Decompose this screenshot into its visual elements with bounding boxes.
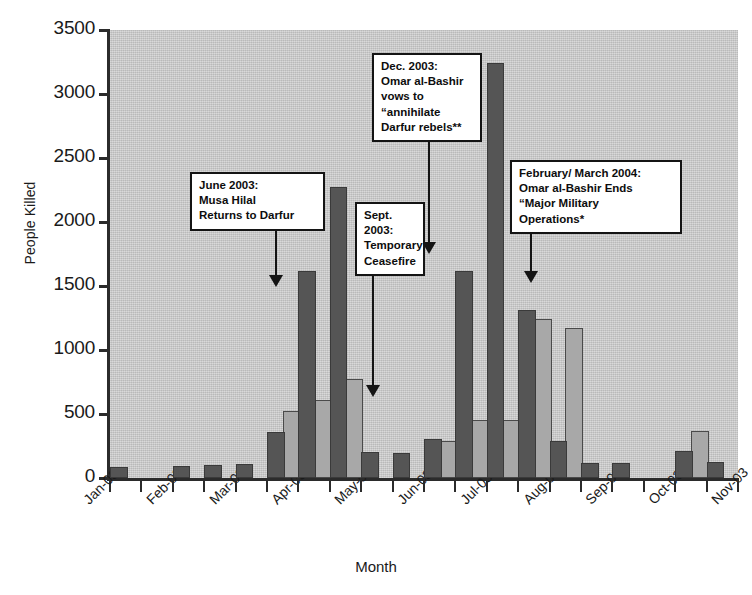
x-tick-mark — [674, 478, 676, 492]
x-tick-mark — [172, 478, 174, 492]
annotation-feb-mar-2004: February/ March 2004: Omar al-Bashir End… — [510, 160, 682, 234]
bar-Mar-04-dark — [550, 441, 568, 478]
annotation-sept-2003: Sept. 2003: Temporary Ceasefire — [355, 202, 425, 276]
bar-Jun-03-dark — [267, 432, 285, 478]
x-tick-mark — [423, 478, 425, 492]
bar-Apr-04-dark — [581, 463, 599, 478]
bar-Jan-04-dark — [487, 63, 505, 478]
annotation-arrow-feb-mar-2004 — [524, 271, 538, 283]
annotation-arrow-june-2003 — [269, 275, 283, 287]
x-tick-mark — [203, 478, 205, 492]
x-axis-title: Month — [0, 558, 752, 575]
chart-figure: People Killed Month 05001000150020002500… — [0, 0, 752, 595]
x-tick-mark — [486, 478, 488, 492]
x-tick-mark — [549, 478, 551, 492]
bar-Sep-03-dark — [361, 452, 379, 478]
bar-Nov-03-dark — [424, 439, 442, 478]
x-tick-mark — [611, 478, 613, 492]
bar-May-03-dark — [236, 464, 254, 478]
y-axis-title: People Killed — [22, 153, 38, 293]
x-tick-mark — [266, 478, 268, 492]
x-tick-mark — [580, 478, 582, 492]
annotation-arrow-sept-2003 — [366, 385, 380, 397]
x-tick-mark — [706, 478, 708, 492]
bar-Mar-03-dark — [173, 466, 191, 478]
x-tick-mark — [297, 478, 299, 492]
annotation-dec-2003: Dec. 2003: Omar al-Bashir vows to “annih… — [372, 53, 482, 142]
annotation-leader-sept-2003 — [372, 276, 374, 385]
y-tick-mark — [99, 349, 110, 352]
y-tick-mark — [99, 157, 110, 160]
annotation-leader-feb-mar-2004 — [530, 234, 532, 271]
y-tick-mark — [99, 221, 110, 224]
bar-Aug-03-dark — [330, 187, 348, 478]
annotation-leader-june-2003 — [275, 231, 277, 275]
plot-area: 0500100015002000250030003500 Jan-03Feb-0… — [107, 30, 738, 481]
bar-Feb-04-dark — [518, 310, 536, 478]
bar-Aug-04-dark — [707, 462, 725, 478]
y-tick-mark — [99, 285, 110, 288]
x-tick-mark — [360, 478, 362, 492]
y-tick-label: 1500 — [54, 273, 95, 295]
bar-Jul-03-dark — [298, 271, 316, 478]
bar-Dec-03-dark — [455, 271, 473, 478]
x-tick-mark — [643, 478, 645, 492]
x-tick-mark — [517, 478, 519, 492]
bar-Oct-03-dark — [393, 453, 411, 478]
x-tick-mark — [737, 478, 739, 492]
y-tick-label: 2500 — [54, 145, 95, 167]
annotation-june-2003: June 2003: Musa Hilal Returns to Darfur — [190, 172, 325, 231]
bar-Jul-04-dark — [675, 451, 693, 478]
y-tick-label: 500 — [64, 401, 95, 423]
y-tick-mark — [99, 93, 110, 96]
y-tick-mark — [99, 29, 110, 32]
y-tick-label: 1000 — [54, 337, 95, 359]
annotation-leader-dec-2003 — [428, 142, 430, 242]
y-tick-label: 2000 — [54, 209, 95, 231]
bar-Mar-04-light — [565, 328, 583, 478]
x-tick-mark — [454, 478, 456, 492]
y-tick-label: 3000 — [54, 81, 95, 103]
bar-Apr-03-dark — [204, 465, 222, 478]
x-tick-mark — [329, 478, 331, 492]
x-tick-mark — [235, 478, 237, 492]
y-tick-mark — [99, 413, 110, 416]
bar-Jan-03-dark — [110, 467, 128, 478]
y-tick-label: 3500 — [54, 17, 95, 39]
x-tick-mark — [140, 478, 142, 492]
bar-May-04-dark — [612, 463, 630, 478]
x-tick-mark — [392, 478, 394, 492]
